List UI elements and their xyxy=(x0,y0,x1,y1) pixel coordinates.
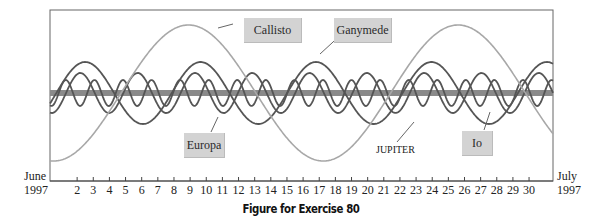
x-tick-label: 28 xyxy=(491,183,503,198)
x-tick-label: 12 xyxy=(233,183,245,198)
figure-caption: Figure for Exercise 80 xyxy=(45,202,557,216)
europa-label: Europa xyxy=(184,133,225,158)
x-tick-label: 25 xyxy=(442,183,454,198)
x-tick-label: 4 xyxy=(106,183,112,198)
x-tick-label: 19 xyxy=(346,183,358,198)
x-tick-label: 13 xyxy=(249,183,261,198)
x-tick-label: 21 xyxy=(378,183,390,198)
x-start-year: 1997 xyxy=(24,183,48,197)
x-tick-label: 7 xyxy=(155,183,161,198)
x-tick-label: 29 xyxy=(507,183,519,198)
x-tick-label: 15 xyxy=(281,183,293,198)
callisto-label: Callisto xyxy=(244,18,302,43)
io-label: Io xyxy=(462,131,493,156)
x-tick-label: 18 xyxy=(329,183,341,198)
x-tick-label: 3 xyxy=(90,183,96,198)
x-tick-label: 16 xyxy=(297,183,309,198)
x-tick-label: 30 xyxy=(523,183,535,198)
x-tick-label: 24 xyxy=(426,183,438,198)
x-tick-label: 10 xyxy=(200,183,212,198)
x-tick-label: 14 xyxy=(265,183,277,198)
x-tick-label: 26 xyxy=(459,183,471,198)
x-tick-label: 20 xyxy=(362,183,374,198)
x-tick-label: 27 xyxy=(475,183,487,198)
x-tick-label: 17 xyxy=(313,183,325,198)
x-tick-label: 8 xyxy=(171,183,177,198)
x-tick-label: 6 xyxy=(139,183,145,198)
ganymede-label: Ganymede xyxy=(334,18,392,43)
x-tick-label: 11 xyxy=(217,183,229,198)
x-end-year: 1997 xyxy=(557,183,581,197)
jupiter-label: JUPITER xyxy=(376,144,415,155)
x-start-month: June xyxy=(24,169,46,183)
x-tick-label: 22 xyxy=(394,183,406,198)
x-tick-label: 9 xyxy=(187,183,193,198)
x-end-month: July xyxy=(557,169,577,183)
x-tick-label: 2 xyxy=(74,183,80,198)
x-tick-label: 5 xyxy=(123,183,129,198)
x-tick-label: 23 xyxy=(410,183,422,198)
